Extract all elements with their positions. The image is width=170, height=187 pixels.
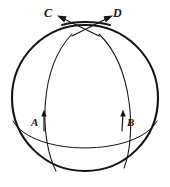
tangent-vector-b-group <box>120 110 125 132</box>
meridian-arc-right <box>99 34 131 168</box>
meridian-arc-left <box>45 34 72 171</box>
label-d: D <box>113 7 122 19</box>
sphere-outline-circle <box>12 25 158 171</box>
tangent-vector-c-arrowhead <box>57 16 67 23</box>
sphere-diagram-canvas <box>0 0 170 187</box>
tangent-vector-d-shaft <box>72 17 110 36</box>
tangent-vector-a-group <box>41 110 46 132</box>
label-b: B <box>127 117 134 128</box>
label-a: A <box>31 117 38 128</box>
label-c: C <box>44 7 52 19</box>
tangent-vector-a-arrowhead <box>41 110 46 117</box>
sphere-diagram-figure: C D A B <box>0 0 170 187</box>
tangent-vector-d-arrowhead <box>104 16 114 23</box>
tangent-vector-b-arrowhead <box>120 110 125 117</box>
